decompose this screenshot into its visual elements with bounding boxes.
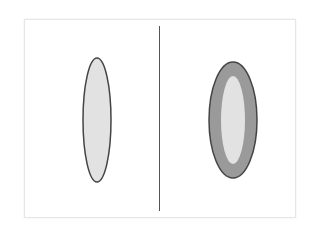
left-panel (25, 20, 159, 217)
figure-frame (24, 19, 296, 218)
right-abstract-shape (160, 20, 295, 217)
right-panel (160, 20, 295, 217)
left-abstract-shape (25, 20, 159, 217)
